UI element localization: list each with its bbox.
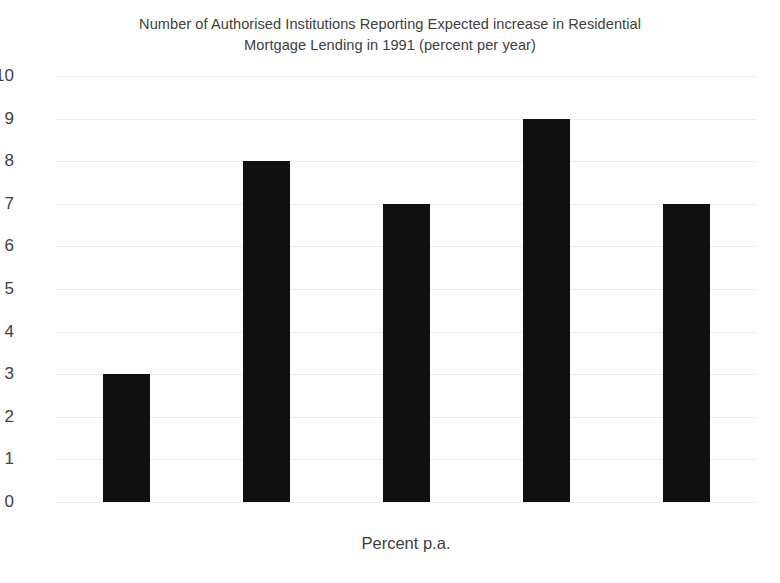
bar: [103, 374, 150, 502]
y-axis-tick-label: 3: [0, 365, 14, 382]
chart-title-line-2: Mortgage Lending in 1991 (percent per ye…: [60, 35, 720, 56]
bar: [523, 119, 570, 502]
y-axis-tick-label: 8: [0, 152, 14, 169]
chart-title-line-1: Number of Authorised Institutions Report…: [60, 14, 720, 35]
bar-chart: Number of Authorised Institutions Report…: [0, 0, 780, 583]
plot-area: 1098765432100-1011-2021-3031-40Over 40: [56, 76, 756, 502]
gridline: [56, 76, 756, 77]
y-axis-tick-label: 10: [0, 67, 14, 84]
y-axis-tick-label: 4: [0, 323, 14, 340]
gridline: [56, 161, 756, 162]
y-axis-tick-label: 0: [0, 493, 14, 510]
bar: [243, 161, 290, 502]
bar: [663, 204, 710, 502]
chart-title: Number of Authorised Institutions Report…: [60, 14, 720, 56]
bar: [383, 204, 430, 502]
y-axis-tick-label: 2: [0, 408, 14, 425]
x-axis-title: Percent p.a.: [56, 533, 756, 553]
gridline: [56, 119, 756, 120]
y-axis-tick-label: 1: [0, 450, 14, 467]
gridline: [56, 502, 756, 503]
y-axis-tick-label: 6: [0, 237, 14, 254]
y-axis-tick-label: 7: [0, 195, 14, 212]
y-axis-tick-label: 9: [0, 110, 14, 127]
y-axis-tick-label: 5: [0, 280, 14, 297]
